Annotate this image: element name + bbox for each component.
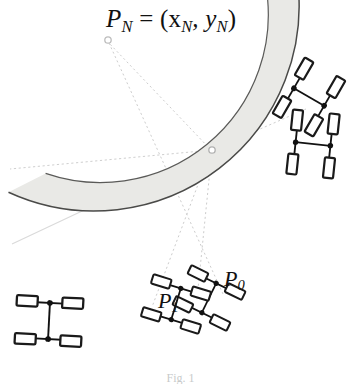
figure-caption: Fig. 1 — [0, 371, 361, 384]
title-equals: = (x — [133, 5, 181, 32]
label-p0-sub: 0 — [237, 277, 244, 293]
figure-caption-clip: Fig. 1 — [0, 371, 361, 384]
label-p1-sub: 1 — [171, 299, 178, 315]
label-p0-base: P — [224, 266, 237, 291]
title-comma: , y — [192, 5, 216, 32]
title-sub-n: N — [121, 17, 132, 36]
label-p1-base: P — [158, 288, 171, 313]
label-p1: P1 — [158, 290, 179, 315]
point-pn-marker — [105, 37, 111, 43]
title-sub-n3: N — [217, 17, 228, 36]
title-p: P — [106, 5, 121, 32]
page-title-pn-equation: PN = (xN, yN) — [106, 6, 236, 35]
label-p0: P0 — [224, 268, 245, 293]
title-paren-close: ) — [228, 5, 237, 32]
figure-canvas — [0, 0, 361, 384]
title-sub-n2: N — [181, 17, 192, 36]
rotation-center-marker — [209, 147, 215, 153]
